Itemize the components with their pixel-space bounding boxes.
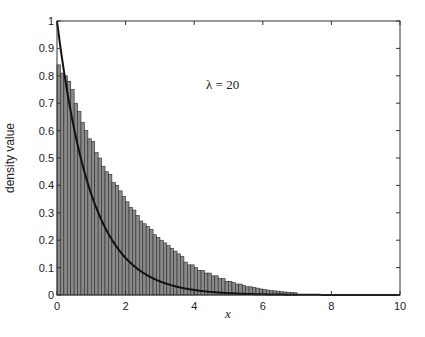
- y-tick-label: 0.5: [39, 152, 54, 164]
- x-tick-label: 0: [54, 300, 60, 312]
- histogram-bar: [98, 158, 101, 295]
- chart: 0246810 00.10.20.30.40.50.60.70.80.91 x …: [0, 0, 425, 337]
- x-axis-label: x: [224, 306, 231, 321]
- x-tick-label: 8: [328, 300, 334, 312]
- histogram-bar: [78, 111, 81, 295]
- x-tick-label: 4: [191, 300, 197, 312]
- histogram-bar: [150, 229, 153, 295]
- annotation-lambda: λ = 20: [206, 77, 239, 92]
- y-tick-label: 0.6: [39, 125, 54, 137]
- histogram-bar: [132, 210, 135, 295]
- y-tick-label: 0.7: [39, 97, 54, 109]
- y-tick-label: 0.2: [39, 234, 54, 246]
- y-tick-label: 0.8: [39, 70, 54, 82]
- histogram-bar: [174, 251, 177, 295]
- histogram-bar: [156, 237, 159, 295]
- y-tick-label: 0.1: [39, 262, 54, 274]
- histogram-bar: [115, 185, 118, 295]
- histogram-bar: [143, 224, 146, 295]
- histogram-bar: [177, 254, 180, 295]
- x-tick-label: 10: [394, 300, 406, 312]
- histogram-bar: [167, 246, 170, 295]
- histogram-bar: [129, 207, 132, 295]
- x-tick-label: 6: [260, 300, 266, 312]
- histogram-bar: [139, 221, 142, 295]
- histogram-bar: [81, 122, 84, 295]
- y-tick-label: 0.3: [39, 207, 54, 219]
- histogram-bar: [91, 142, 94, 295]
- histogram-bar: [102, 166, 105, 295]
- histogram-bar: [160, 240, 163, 295]
- y-tick-label: 0: [48, 289, 54, 301]
- y-tick-label: 0.4: [39, 179, 54, 191]
- y-tick-label: 1: [48, 15, 54, 27]
- histogram-bar: [170, 248, 173, 295]
- histogram-bar: [84, 131, 87, 295]
- histogram-bar: [153, 235, 156, 295]
- histogram-bar: [180, 257, 183, 295]
- histogram-bar: [163, 243, 166, 295]
- histogram-bar: [184, 262, 187, 295]
- histogram-bar: [60, 73, 63, 295]
- x-tick-label: 2: [123, 300, 129, 312]
- histogram-bar: [119, 191, 122, 295]
- y-tick-label: 0.9: [39, 42, 54, 54]
- histogram-bar: [146, 227, 149, 296]
- histogram-bar: [136, 216, 139, 295]
- y-axis-label: density value: [3, 123, 17, 193]
- histogram-bar: [126, 202, 129, 295]
- histogram-bar: [95, 153, 98, 295]
- histogram-bar: [57, 65, 60, 295]
- histogram-bar: [64, 76, 67, 295]
- histogram-bars: [57, 65, 297, 295]
- histogram-bar: [122, 196, 125, 295]
- histogram-bar: [88, 139, 91, 295]
- histogram-bar: [187, 265, 190, 295]
